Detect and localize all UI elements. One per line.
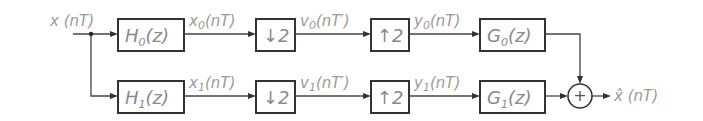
arrow-icon [363, 31, 371, 37]
y0-signal-label: y0(nT) [413, 12, 460, 32]
g0-to-sum-wire [545, 34, 580, 79]
output-label: x̂ (nT) [613, 87, 658, 105]
h0-label: H0(z) [125, 25, 169, 49]
v0-signal-label: v0(nT′) [300, 12, 350, 32]
arrow-icon [110, 93, 118, 99]
arrow-icon [248, 31, 256, 37]
downsample-label-1: ↓2 [263, 87, 290, 108]
arrow-icon [472, 93, 480, 99]
filter-bank-diagram: x (nT) H0(z) x0(nT) ↓2 v0(nT′) ↑2 y0(nT)… [0, 0, 703, 121]
arrow-icon [363, 93, 371, 99]
y1-signal-label: y1(nT) [413, 74, 460, 94]
x0-signal-label: x0(nT) [188, 12, 235, 32]
arrow-icon [577, 76, 583, 84]
upsample-label-0: ↑2 [377, 25, 404, 46]
g1-label: G1(z) [487, 87, 531, 111]
x1-signal-label: x1(nT) [188, 74, 235, 94]
arrow-icon [110, 31, 118, 37]
arrow-icon [472, 31, 480, 37]
g0-label: G0(z) [487, 25, 531, 49]
arrow-icon [603, 93, 611, 99]
downsample-label-0: ↓2 [263, 25, 290, 46]
branch-wire [91, 34, 113, 96]
h1-label: H1(z) [125, 87, 169, 111]
plus-icon: + [573, 86, 586, 105]
upsample-label-1: ↑2 [377, 87, 404, 108]
input-label: x (nT) [49, 12, 94, 30]
v1-signal-label: v1(nT′) [300, 74, 350, 94]
arrow-icon [560, 93, 568, 99]
arrow-icon [248, 93, 256, 99]
